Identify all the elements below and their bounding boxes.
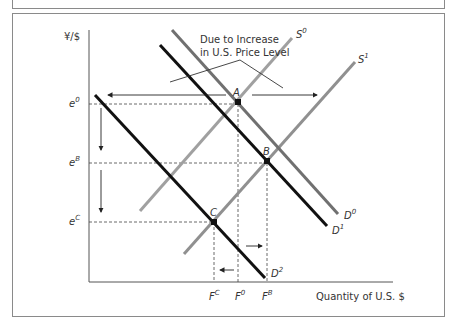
- label-d2: D2: [271, 266, 284, 279]
- tick-FC: FC: [209, 289, 220, 302]
- demand-curve-d1: [160, 45, 327, 226]
- tick-eB: eB: [69, 155, 80, 168]
- x-axis-label: Quantity of U.S. $: [316, 291, 405, 302]
- shift-arrows: [101, 95, 317, 270]
- tick-eC: eC: [69, 214, 80, 227]
- point-b-label: B: [263, 146, 270, 157]
- label-s1: S1: [358, 52, 369, 65]
- exchange-rate-diagram: Due to Increase in U.S. Price Level A B …: [0, 0, 463, 332]
- label-s0: S0: [296, 27, 307, 40]
- point-a-marker: [235, 99, 241, 105]
- supply-curve-s0: [140, 38, 292, 211]
- tick-e0: e0: [69, 96, 80, 109]
- label-d1: D1: [332, 223, 344, 236]
- annotation-line-1: Due to Increase: [200, 34, 279, 45]
- demand-curve-d2: [95, 95, 265, 278]
- point-c-label: C: [210, 207, 217, 218]
- y-axis-label: ¥/$: [64, 31, 80, 42]
- point-b-marker: [264, 158, 270, 164]
- point-a-label: A: [232, 87, 240, 98]
- label-d0: D0: [344, 208, 357, 221]
- point-c-marker: [211, 219, 217, 225]
- tick-F0: F0: [235, 289, 246, 302]
- annotation-line-2: in U.S. Price Level: [200, 47, 289, 58]
- tick-FB: FB: [262, 289, 273, 302]
